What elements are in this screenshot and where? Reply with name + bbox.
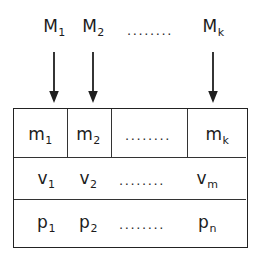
parameter-row-ellipsis: ........	[119, 218, 165, 231]
arrow-down-1	[47, 52, 61, 108]
source-label-m2: M2	[82, 18, 104, 35]
arrow-down-1-icon	[47, 52, 61, 104]
memory-cell-m1-subscript: 1	[45, 134, 52, 147]
parameter-cell-p2: p2	[79, 214, 97, 231]
source-label-m1: M1	[43, 18, 65, 35]
memory-cell-m1: m1	[28, 126, 52, 143]
arrow-down-2	[86, 52, 100, 108]
arrow-down-k-icon	[206, 52, 220, 104]
memory-row-ellipsis: ........	[125, 129, 171, 142]
value-row-ellipsis: ........	[119, 174, 165, 187]
parameter-cell-pn-subscript: n	[209, 222, 216, 235]
parameter-cell-p1-subscript: 1	[48, 222, 55, 235]
value-cell-v2: v2	[79, 170, 96, 187]
cell-divider-m2-ellipsis	[111, 109, 112, 157]
value-cell-v2-subscript: 2	[90, 178, 97, 191]
source-label-m1-subscript: 1	[58, 26, 65, 39]
arrow-down-k	[206, 52, 220, 108]
arrow-down-2-icon	[86, 52, 100, 104]
parameter-cell-p2-subscript: 2	[90, 222, 97, 235]
memory-cell-mk-subscript: k	[223, 134, 229, 147]
memory-cell-mk: mk	[206, 126, 229, 143]
source-ellipsis: ........	[127, 24, 173, 37]
value-cell-vm: vm	[197, 170, 218, 187]
memory-cell-m2: m2	[76, 126, 100, 143]
parameter-cell-pn: pn	[198, 214, 216, 231]
parameter-cell-p1: p1	[37, 214, 55, 231]
row-divider-memory-value	[14, 157, 246, 158]
value-cell-v1-subscript: 1	[48, 178, 55, 191]
source-label-mk: Mk	[202, 18, 223, 35]
source-label-mk-subscript: k	[218, 26, 224, 39]
value-cell-v1: v1	[37, 170, 54, 187]
diagram-canvas: M1 M2 ........ Mk m1 m2 ........	[0, 0, 263, 261]
value-cell-vm-subscript: m	[207, 178, 218, 191]
row-divider-value-parameter	[14, 199, 246, 200]
cell-divider-m1-m2	[67, 109, 68, 157]
source-label-m2-subscript: 2	[97, 26, 104, 39]
cell-divider-ellipsis-mk	[187, 109, 188, 157]
memory-cell-m2-subscript: 2	[93, 134, 100, 147]
